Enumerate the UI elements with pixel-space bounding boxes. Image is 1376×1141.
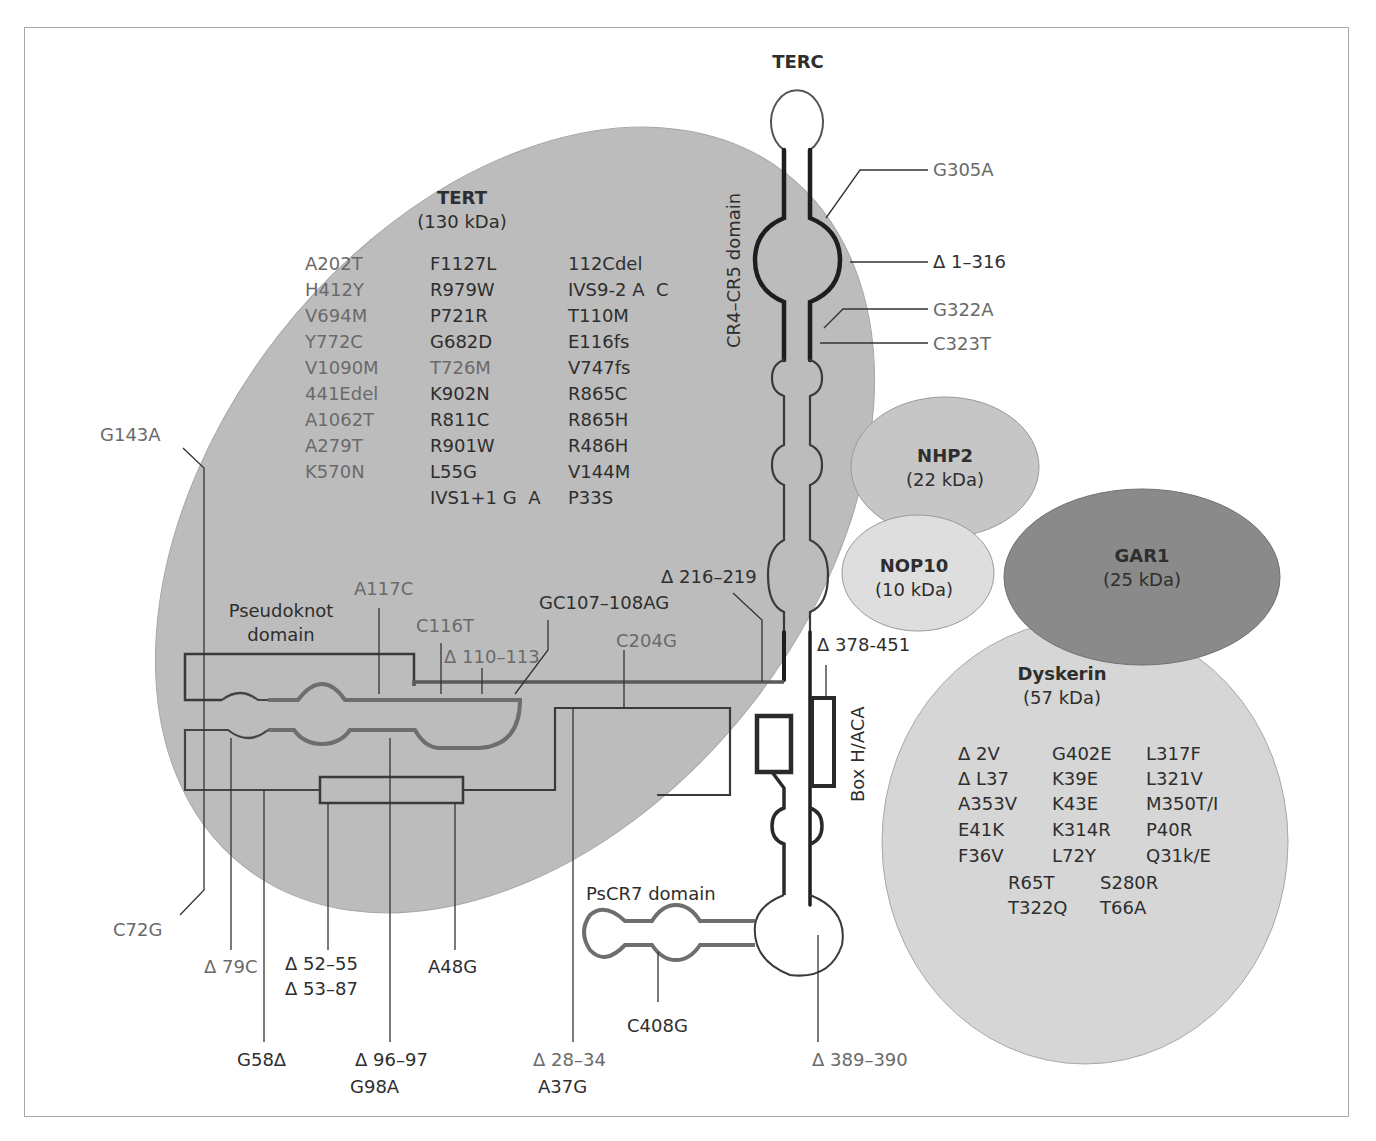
tert-mutation: R865C	[568, 383, 627, 404]
nop10-name: NOP10	[880, 555, 949, 576]
tert-mutation: A279T	[305, 435, 364, 456]
tert-mass: (130 kDa)	[417, 211, 506, 232]
tert-mutation: T726M	[429, 357, 491, 378]
dyskerin-mutation: K39E	[1052, 768, 1098, 789]
dyskerin-mutation: E41K	[958, 819, 1005, 840]
tert-mutation: R811C	[430, 409, 489, 430]
dyskerin-mutation: L317F	[1146, 743, 1201, 764]
terc-mutation: Δ 216–219	[661, 566, 757, 587]
terc-mutation: G322A	[933, 299, 994, 320]
pscr7-domain-label: PsCR7 domain	[586, 883, 716, 904]
terc-title: TERC	[772, 51, 824, 72]
dyskerin-mutation: K314R	[1052, 819, 1111, 840]
terc-mutation: GC107–108AG	[539, 592, 669, 613]
tert-mutation: V1090M	[305, 357, 379, 378]
terc-mutation: Δ 52–55	[285, 953, 358, 974]
terc-mutation: C408G	[627, 1015, 688, 1036]
dyskerin-name: Dyskerin	[1018, 663, 1107, 684]
dyskerin-mutation: Δ L37	[958, 768, 1009, 789]
terc-mutation: C204G	[616, 630, 677, 651]
terc-mutation: Δ 28–34	[533, 1049, 606, 1070]
terc-mutation: Δ 1–316	[933, 251, 1006, 272]
dyskerin-mutation: G402E	[1052, 743, 1112, 764]
gar1-name: GAR1	[1114, 545, 1169, 566]
terc-mutation: Δ 110–113	[444, 646, 540, 667]
terc-mutation: Δ 53–87	[285, 978, 358, 999]
tert-mutation: P721R	[430, 305, 488, 326]
terc-mutation: Δ 79C	[204, 956, 258, 977]
tert-mutation: K902N	[430, 383, 490, 404]
tert-mutation: IVS1+1 G A	[430, 487, 541, 508]
terc-mutation: A37G	[538, 1076, 587, 1097]
pseudoknot-domain-label-line1: Pseudoknot	[229, 600, 334, 621]
dyskerin-mutation: P40R	[1146, 819, 1192, 840]
terc-mutation: C72G	[113, 919, 162, 940]
nop10-mass: (10 kDa)	[875, 579, 953, 600]
tert-mutation: A202T	[305, 253, 364, 274]
tert-mutation: R979W	[430, 279, 495, 300]
tert-mutation: T110M	[567, 305, 629, 326]
tert-mutation: F1127L	[430, 253, 496, 274]
terc-mutation: Δ 378-451	[817, 634, 910, 655]
dyskerin-mutation: Δ 2V	[958, 743, 1000, 764]
terc-mutation: C323T	[933, 333, 992, 354]
tert-mutation: R865H	[568, 409, 628, 430]
dyskerin-mass: (57 kDa)	[1023, 687, 1101, 708]
cr4-cr5-domain-label: CR4–CR5 domain	[723, 193, 744, 348]
nhp2-mass: (22 kDa)	[906, 469, 984, 490]
terc-mutation: A117C	[354, 578, 413, 599]
dyskerin-mutation: A353V	[958, 793, 1018, 814]
terc-mutation: G98A	[350, 1076, 400, 1097]
box-haca-label: Box H/ACA	[847, 706, 868, 802]
dyskerin-mutation: L72Y	[1052, 845, 1097, 866]
terc-mutation: C116T	[416, 615, 475, 636]
tert-mutation: R486H	[568, 435, 628, 456]
nhp2-protein	[851, 397, 1039, 537]
tert-name: TERT	[437, 187, 488, 208]
pseudoknot-domain-label-line2: domain	[247, 624, 314, 645]
terc-mutation: G143A	[100, 424, 161, 445]
gar1-mass: (25 kDa)	[1103, 569, 1181, 590]
terc-mutation: Δ 389–390	[812, 1049, 908, 1070]
dyskerin-mutation: T322Q	[1007, 897, 1068, 918]
tert-mutation: E116fs	[568, 331, 629, 352]
dyskerin-mutation: T66A	[1099, 897, 1147, 918]
tert-mutation: V694M	[305, 305, 367, 326]
tert-protein	[8, 0, 1023, 1051]
dyskerin-mutation: L321V	[1146, 768, 1203, 789]
tert-mutation: IVS9-2 A C	[568, 279, 669, 300]
dyskerin-mutation: S280R	[1100, 872, 1158, 893]
terc-mutation: G305A	[933, 159, 994, 180]
dyskerin-mutation: K43E	[1052, 793, 1098, 814]
tert-mutation: G682D	[430, 331, 492, 352]
terc-mutation: Δ 96–97	[355, 1049, 428, 1070]
tert-mutation: 112Cdel	[568, 253, 642, 274]
dyskerin-mutation: Q31k/E	[1146, 845, 1211, 866]
tert-mutation: P33S	[568, 487, 613, 508]
telomerase-diagram: TERC TERT (130 kDa) A202T H412Y V694M Y7…	[0, 0, 1376, 1141]
tert-mutation: K570N	[305, 461, 365, 482]
terc-mutation: A48G	[428, 956, 477, 977]
dyskerin-mutation: R65T	[1008, 872, 1055, 893]
tert-mutation: R901W	[430, 435, 495, 456]
nhp2-name: NHP2	[917, 445, 973, 466]
dyskerin-mutation: M350T/I	[1146, 793, 1218, 814]
terc-mutation: G58Δ	[237, 1049, 287, 1070]
tert-mutation: A1062T	[305, 409, 375, 430]
tert-mutation: 441Edel	[305, 383, 378, 404]
tert-mutation: Y772C	[304, 331, 363, 352]
tert-mutation: V747fs	[568, 357, 630, 378]
dyskerin-mutation: F36V	[958, 845, 1004, 866]
tert-mutation: H412Y	[305, 279, 365, 300]
tert-mutation: L55G	[430, 461, 477, 482]
tert-mutation: V144M	[568, 461, 630, 482]
